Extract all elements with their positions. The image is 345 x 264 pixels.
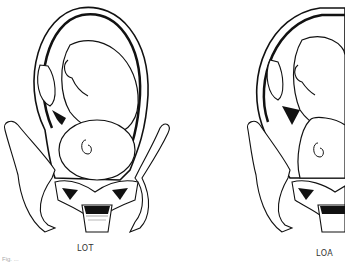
panel-lot-illustration (0, 0, 200, 245)
panel-label-loa: LOA (316, 249, 333, 258)
panel-loa-illustration (240, 0, 345, 245)
lot-pelvis-fetus-drawing (0, 0, 200, 245)
panel-label-lot: LOT (77, 244, 94, 253)
figure-caption-fragment: Fig. ... (2, 256, 19, 262)
loa-pelvis-fetus-drawing (240, 0, 345, 245)
